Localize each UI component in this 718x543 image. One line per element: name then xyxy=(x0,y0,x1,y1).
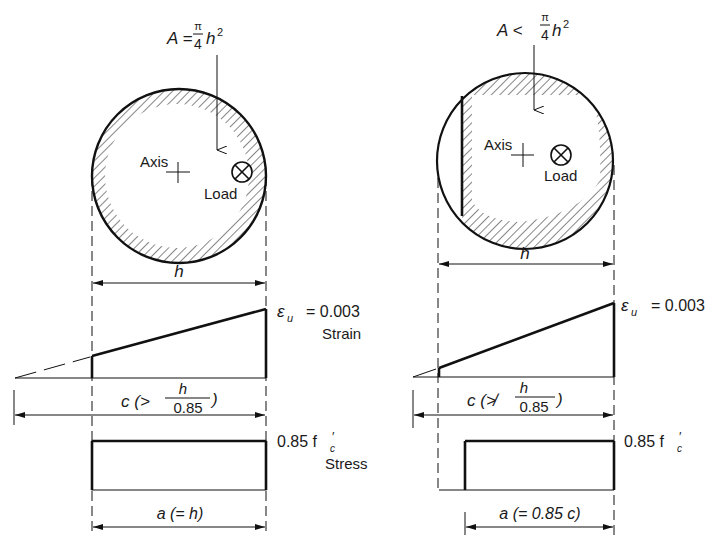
right-section: A < π 4 h 2 Axis Load h xyxy=(413,11,705,535)
svg-text:u: u xyxy=(287,312,293,324)
svg-text:4: 4 xyxy=(194,36,202,52)
svg-text:0.85: 0.85 xyxy=(173,399,202,416)
left-section: A = π 4 h 2 Axis Load xyxy=(14,20,368,535)
svg-text:A =: A = xyxy=(166,29,192,48)
left-c-label: c (> h 0.85 ) xyxy=(121,380,218,416)
right-h-label: h xyxy=(520,244,529,263)
svg-text:c: c xyxy=(677,443,682,454)
left-load-icon xyxy=(232,162,252,182)
svg-text:h: h xyxy=(179,380,187,397)
svg-text:4: 4 xyxy=(541,27,549,43)
svg-text:= 0.003: = 0.003 xyxy=(306,303,360,320)
right-load-label: Load xyxy=(544,167,577,184)
svg-text:ε: ε xyxy=(621,296,629,315)
svg-text:h: h xyxy=(520,379,528,396)
right-a-label: a (= 0.85 c) xyxy=(499,505,580,522)
svg-text:0.85: 0.85 xyxy=(519,398,548,415)
svg-text:ε: ε xyxy=(277,302,285,321)
svg-text:A <: A < xyxy=(496,21,522,40)
svg-text:0.85 f: 0.85 f xyxy=(277,433,318,450)
left-strain-label: ε u = 0.003 Strain xyxy=(277,302,361,342)
svg-text:c (>: c (> xyxy=(121,392,150,411)
svg-text:2: 2 xyxy=(217,26,223,38)
svg-text:Strain: Strain xyxy=(322,325,361,342)
left-h-label: h xyxy=(174,262,183,281)
left-stress-label: 0.85 f c ′ Stress xyxy=(277,429,368,472)
left-stress-block xyxy=(92,441,266,490)
right-strain-diagram xyxy=(413,303,614,377)
right-stress-label: 0.85 f c ′ xyxy=(624,429,682,454)
left-a-label: a (= h) xyxy=(157,505,204,522)
left-load-label: Load xyxy=(204,185,237,202)
svg-text:u: u xyxy=(631,306,637,318)
svg-text:0.85 f: 0.85 f xyxy=(624,433,665,450)
right-load-icon xyxy=(551,145,571,165)
column-section-diagram: A = π 4 h 2 Axis Load xyxy=(0,0,718,543)
svg-text:π: π xyxy=(541,11,549,23)
svg-text:c: c xyxy=(330,443,335,454)
svg-text:h: h xyxy=(206,29,215,48)
left-axis-label: Axis xyxy=(140,153,168,170)
right-stress-block xyxy=(465,441,614,490)
svg-text:h: h xyxy=(552,21,561,40)
svg-text:2: 2 xyxy=(563,18,569,30)
svg-text:): ) xyxy=(555,390,563,409)
right-area-label: A < π 4 h 2 xyxy=(496,11,569,43)
svg-text:′: ′ xyxy=(679,429,682,444)
left-strain-diagram xyxy=(15,309,266,378)
svg-text:Stress: Stress xyxy=(325,455,368,472)
svg-text:): ) xyxy=(210,390,218,409)
svg-text:π: π xyxy=(194,20,202,32)
left-area-label: A = π 4 h 2 xyxy=(166,20,223,52)
svg-text:c (≯: c (≯ xyxy=(467,391,500,410)
right-strain-label: ε u = 0.003 xyxy=(621,296,705,318)
right-hatched-region xyxy=(462,60,632,260)
svg-text:= 0.003: = 0.003 xyxy=(651,297,705,314)
right-c-label: c (≯ h 0.85 ) xyxy=(467,379,563,415)
svg-text:′: ′ xyxy=(332,429,335,444)
right-axis-label: Axis xyxy=(484,136,512,153)
